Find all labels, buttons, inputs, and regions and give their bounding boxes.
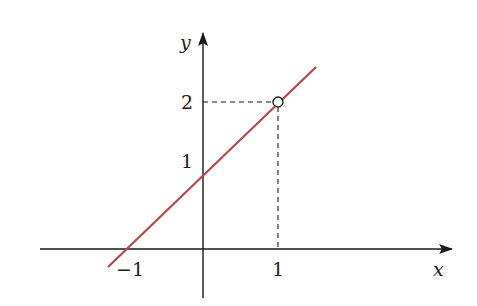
y-tick-2: 2	[181, 91, 193, 113]
x-axis-label: x	[433, 258, 444, 280]
y-tick-1: 1	[181, 150, 193, 172]
coordinate-plane: y x 2 1 −1 1	[0, 0, 477, 306]
function-line	[108, 67, 316, 267]
x-tick-1: 1	[272, 258, 284, 280]
y-axis-label: y	[179, 31, 191, 53]
hollow-point	[273, 97, 283, 107]
x-tick-neg1: −1	[116, 258, 144, 280]
